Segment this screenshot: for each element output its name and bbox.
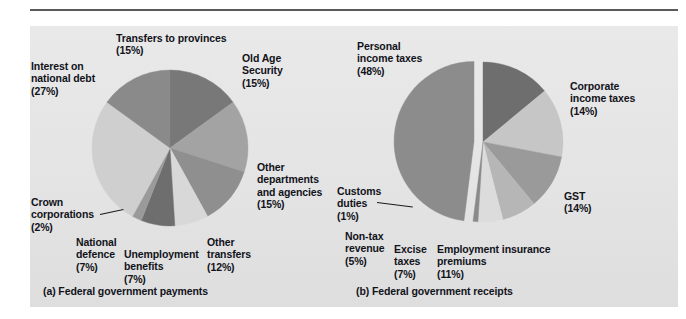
label-line: Personal — [357, 40, 422, 52]
label-national-defence: National defence (7%) — [76, 236, 117, 273]
label-non-tax-revenue: Non-tax revenue (5%) — [345, 230, 385, 267]
label-line: transfers — [207, 248, 251, 260]
label-other-transfers: Other transfers (12%) — [207, 236, 251, 273]
label-other-departments-and-agencies: Other departments and agencies (15%) — [257, 161, 322, 211]
label-line: GST — [564, 190, 592, 202]
label-pct: (2%) — [31, 221, 94, 233]
label-pct: (7%) — [124, 273, 199, 285]
label-line: Non-tax — [345, 230, 385, 242]
label-pct: (15%) — [116, 44, 226, 56]
label-pct: (14%) — [570, 105, 635, 117]
label-pct: (48%) — [357, 65, 422, 77]
label-line: Interest on — [31, 60, 95, 72]
label-excise-taxes: Excise taxes (7%) — [394, 243, 427, 280]
label-line: National — [76, 236, 117, 248]
label-pct: (15%) — [257, 198, 322, 210]
caption-payments: (a) Federal government payments — [43, 285, 208, 297]
label-line: revenue — [345, 242, 385, 254]
label-pct: (7%) — [76, 261, 117, 273]
label-line: income taxes — [570, 92, 635, 104]
label-transfers-to-provinces: Transfers to provinces (15%) — [116, 32, 226, 57]
label-line: departments — [257, 173, 322, 185]
label-line: premiums — [437, 255, 551, 267]
label-gst: GST (14%) — [564, 190, 592, 215]
label-pct: (14%) — [564, 202, 592, 214]
label-line: benefits — [124, 260, 199, 272]
label-line: Corporate — [570, 80, 635, 92]
label-line: Other — [257, 161, 322, 173]
label-line: taxes — [394, 255, 427, 267]
label-old-age-security: Old Age Security (15%) — [242, 52, 283, 89]
caption-receipts: (b) Federal government receipts — [356, 285, 513, 297]
label-unemployment-benefits: Unemployment benefits (7%) — [124, 248, 199, 285]
label-pct: (7%) — [394, 268, 427, 280]
label-line: Excise — [394, 243, 427, 255]
label-line: Unemployment — [124, 248, 199, 260]
label-line: Security — [242, 64, 283, 76]
label-line: Employment insurance — [437, 243, 551, 255]
label-pct: (5%) — [345, 255, 385, 267]
label-pct: (1%) — [337, 210, 381, 222]
label-line: corporations — [31, 208, 94, 220]
label-line: Customs — [337, 185, 381, 197]
label-line: Crown — [31, 196, 94, 208]
label-line: Transfers to provinces — [116, 32, 226, 44]
label-line: duties — [337, 197, 381, 209]
label-line: Other — [207, 236, 251, 248]
label-pct: (15%) — [242, 77, 283, 89]
label-line: Old Age — [242, 52, 283, 64]
figure-root: Transfers to provinces (15%) Interest on… — [0, 0, 686, 319]
label-crown-corporations: Crown corporations (2%) — [31, 196, 94, 233]
label-line: national debt — [31, 72, 95, 84]
label-line: income taxes — [357, 52, 422, 64]
label-employment-insurance-premiums: Employment insurance premiums (11%) — [437, 243, 551, 280]
label-personal-income-taxes: Personal income taxes (48%) — [357, 40, 422, 77]
label-line: and agencies — [257, 186, 322, 198]
label-interest-on-national-debt: Interest on national debt (27%) — [31, 60, 95, 97]
label-line: defence — [76, 248, 117, 260]
label-pct: (12%) — [207, 261, 251, 273]
label-corporate-income-taxes: Corporate income taxes (14%) — [570, 80, 635, 117]
label-customs-duties: Customs duties (1%) — [337, 185, 381, 222]
label-pct: (27%) — [31, 85, 95, 97]
pie-slice — [394, 61, 474, 220]
label-pct: (11%) — [437, 268, 551, 280]
